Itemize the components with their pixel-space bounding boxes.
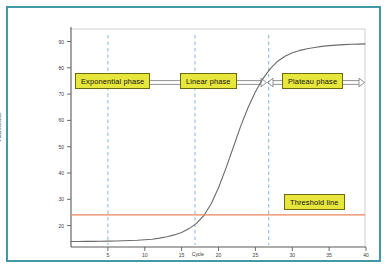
y-tick-label-40: 40: [58, 170, 64, 176]
x-axis-ticks: 5 10 15 20 25 30 35 40: [107, 247, 369, 258]
y-tick-label-90: 90: [58, 39, 64, 45]
x-tick-label-40: 40: [363, 252, 369, 258]
plot-area: 90 80 70 60 50 40 30 20 5: [9, 9, 378, 259]
x-tick-label-10: 10: [142, 252, 148, 258]
y-tick-label-70: 70: [58, 91, 64, 97]
x-tick-label-35: 35: [326, 252, 332, 258]
y-axis-ticks: 90 80 70 60 50 40 30 20: [58, 39, 71, 229]
y-tick-label-30: 30: [58, 196, 64, 202]
amplification-plot-svg: 90 80 70 60 50 40 30 20 5: [9, 9, 378, 259]
figure-frame: 90 80 70 60 50 40 30 20 5: [0, 0, 385, 266]
annotation-linear-phase: Linear phase: [180, 73, 237, 89]
y-axis-title: Fluorescence: [0, 112, 2, 141]
x-tick-label-25: 25: [253, 252, 259, 258]
x-tick-label-5: 5: [107, 252, 110, 258]
y-tick-label-60: 60: [58, 117, 64, 123]
y-tick-label-50: 50: [58, 144, 64, 150]
annotation-plateau-phase: Plateau phase: [282, 73, 343, 89]
y-tick-label-80: 80: [58, 65, 64, 71]
y-tick-label-20: 20: [58, 223, 64, 229]
x-tick-label-30: 30: [290, 252, 296, 258]
annotation-threshold-line: Threshold line: [284, 194, 345, 210]
x-tick-label-15: 15: [179, 252, 185, 258]
x-axis-title: Cycle: [192, 252, 204, 257]
annotation-exponential-phase: Exponential phase: [75, 73, 150, 89]
x-tick-label-20: 20: [216, 252, 222, 258]
